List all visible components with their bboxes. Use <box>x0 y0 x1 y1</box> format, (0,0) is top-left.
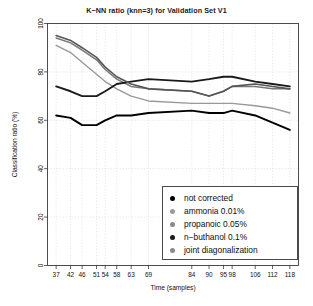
legend-item: propanoic 0.05% <box>163 218 297 231</box>
x-tick-label: 58 <box>113 271 121 278</box>
legend-item-label: joint diagonalization <box>184 246 258 254</box>
legend-item-label: n−buthanol 0.1% <box>184 233 247 241</box>
legend-item: joint diagonalization <box>163 244 297 257</box>
series-line <box>56 38 290 96</box>
legend-marker-dot-icon <box>170 235 175 240</box>
y-tick-label: 100 <box>37 18 44 29</box>
x-tick-label: 63 <box>128 271 136 278</box>
legend-item-label: propanoic 0.05% <box>184 220 247 228</box>
legend-marker-dot-icon <box>170 209 175 214</box>
legend-item: ammonia 0.01% <box>163 205 297 218</box>
legend-item: not corrected <box>163 192 297 205</box>
y-axis-title: Classification ratio (%) <box>11 112 19 178</box>
x-tick-label: 84 <box>188 271 196 278</box>
x-tick-label: 95 <box>220 271 228 278</box>
series-lines <box>56 36 290 130</box>
legend-marker-dot-icon <box>170 196 175 201</box>
x-tick-label: 90 <box>206 271 214 278</box>
y-tick-label: 20 <box>37 213 44 221</box>
x-tick-label: 37 <box>53 271 61 278</box>
chart-legend: not correctedammonia 0.01%propanoic 0.05… <box>162 186 298 260</box>
y-tick-label: 0 <box>37 263 44 267</box>
y-tick-label: 40 <box>37 165 44 173</box>
x-tick-label: 98 <box>229 271 237 278</box>
x-tick-label: 118 <box>285 271 296 278</box>
legend-item: n−buthanol 0.1% <box>163 231 297 244</box>
x-tick-label: 54 <box>102 271 110 278</box>
x-tick-label: 106 <box>250 271 261 278</box>
legend-marker-dot-icon <box>170 248 175 253</box>
x-tick-label: 46 <box>79 271 87 278</box>
y-tick-label: 60 <box>37 116 44 124</box>
x-axis-title: Time (samples) <box>150 284 195 292</box>
y-tick-label: 80 <box>37 68 44 76</box>
chart-figure: K−NN ratio (knn=3) for Validation Set V1… <box>0 0 313 306</box>
x-tick-label: 112 <box>267 271 278 278</box>
y-axis: 020406080100 <box>37 18 47 268</box>
legend-item-label: ammonia 0.01% <box>184 207 245 215</box>
x-tick-label: 42 <box>67 271 75 278</box>
x-tick-label: 51 <box>93 271 101 278</box>
legend-marker-dot-icon <box>170 222 175 227</box>
plot-canvas: 374246515458636984909598106112118 020406… <box>0 0 313 306</box>
x-tick-label: 69 <box>145 271 153 278</box>
x-axis: 374246515458636984909598106112118 <box>53 266 296 279</box>
legend-item-label: not corrected <box>184 194 233 202</box>
